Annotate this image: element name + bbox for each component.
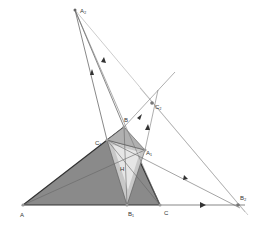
geometry-diagram: A₂ A B C B₁ B₂ C₁ C₂ A₁ H bbox=[0, 0, 254, 242]
point-a bbox=[22, 204, 25, 207]
arrow-marker bbox=[137, 114, 142, 120]
label-b2: B₂ bbox=[240, 195, 246, 201]
point-c bbox=[159, 204, 162, 207]
point-b bbox=[123, 126, 126, 129]
arrow-marker bbox=[200, 202, 206, 208]
point-c1 bbox=[106, 139, 109, 142]
label-c1: C₁ bbox=[95, 140, 101, 146]
label-b: B bbox=[124, 117, 128, 123]
label-a: A bbox=[20, 212, 24, 218]
point-b1 bbox=[126, 204, 129, 207]
label-a1: A₁ bbox=[146, 150, 152, 156]
label-c: C bbox=[164, 210, 168, 216]
point-b2 bbox=[236, 203, 240, 207]
arrow-marker bbox=[183, 175, 188, 180]
label-a2: A₂ bbox=[80, 8, 86, 14]
label-c2: C₂ bbox=[155, 104, 162, 110]
arrow-marker bbox=[101, 57, 106, 63]
line-a1-c2 bbox=[145, 90, 158, 150]
point-a2 bbox=[74, 9, 77, 12]
label-b1: B₁ bbox=[128, 211, 134, 217]
label-h: H bbox=[120, 166, 124, 172]
arrow-marker bbox=[145, 124, 150, 130]
point-c2 bbox=[150, 101, 154, 105]
